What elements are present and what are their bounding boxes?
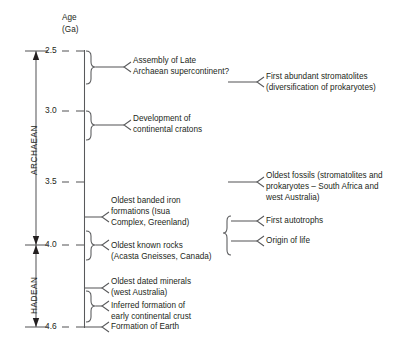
axis-title-line2: (Ga) [62, 25, 78, 36]
era-label-hadean: HADEAN [30, 277, 39, 314]
event-dated-minerals-line1: Oldest dated minerals [111, 277, 191, 287]
event-continental-crust-line1: Inferred formation of [111, 301, 185, 311]
arrowhead-oldest-fossils [257, 177, 264, 187]
event-banded-iron-line3: Complex, Greenland) [111, 218, 189, 228]
event-origin-of-life-line1: Origin of life [266, 236, 310, 246]
tick-label-3-0: 3.0 [45, 105, 57, 115]
era-label-archaean: ARCHAEAN [30, 125, 39, 175]
brace-oldest-rocks [86, 231, 96, 260]
event-oldest-fossils-line2: prokaryotes – South Africa and [266, 182, 379, 192]
arrowhead-first-stromatolites [257, 77, 264, 87]
event-assembly-supercontinent-line1: Assembly of Late [133, 56, 196, 66]
tick-label-4-6: 4.6 [45, 321, 57, 331]
event-first-stromatolites-line1: First abundant stromatolites [266, 72, 368, 82]
event-dated-minerals-line2: (west Australia) [111, 288, 167, 298]
event-continental-cratons-line1: Development of [133, 114, 191, 124]
event-oldest-rocks-line2: (Acasta Gneisses, Canada) [111, 252, 212, 262]
event-banded-iron-line1: Oldest banded iron [111, 196, 181, 206]
event-first-stromatolites-line2: (diversification of prokaryotes) [266, 83, 376, 93]
event-oldest-fossils-line1: Oldest fossils (stromatolites and [266, 171, 383, 181]
geologic-timescale-diagram: Age (Ga) 2.5 3.0 3.5 4.0 4.6 ARCHAEAN HA… [0, 0, 395, 346]
event-oldest-rocks-line1: Oldest known rocks [111, 241, 183, 251]
arrowhead-continental-crust [102, 301, 109, 311]
era-arrowhead-archaean-top [33, 51, 39, 60]
brace-continental-cratons [86, 111, 96, 140]
brace-life-origin [223, 216, 231, 255]
event-continental-crust-line2: early continental crust [111, 312, 191, 322]
axis-title-line1: Age [62, 13, 77, 24]
era-arrowhead-archaean-bottom [33, 236, 39, 245]
arrowhead-dated-minerals [102, 283, 109, 293]
event-assembly-supercontinent-line2: Archaean supercontinent? [133, 67, 229, 77]
tick-label-2-5: 2.5 [45, 45, 57, 55]
arrowhead-formation-earth [102, 322, 109, 332]
tick-label-3-5: 3.5 [45, 176, 57, 186]
tick-label-4-0: 4.0 [45, 239, 57, 249]
event-formation-earth-line1: Formation of Earth [111, 322, 179, 332]
arrowhead-first-autotrophs [257, 216, 264, 226]
era-arrowhead-hadean-top [33, 245, 39, 254]
arrowhead-assembly-supercontinent [124, 62, 131, 72]
event-first-autotrophs-line1: First autotrophs [266, 216, 323, 226]
arrowhead-origin-of-life [257, 236, 264, 246]
brace-continental-crust [86, 291, 96, 322]
event-banded-iron-line2: formations (Isua [111, 207, 170, 217]
arrowhead-banded-iron [102, 212, 109, 222]
arrowhead-oldest-rocks [102, 240, 109, 250]
era-arrowhead-hadean-bottom [33, 318, 39, 327]
event-oldest-fossils-line3: west Australia) [266, 193, 320, 203]
arrowhead-continental-cratons [124, 120, 131, 130]
event-continental-cratons-line2: continental cratons [133, 125, 202, 135]
brace-assembly-supercontinent [86, 51, 96, 84]
